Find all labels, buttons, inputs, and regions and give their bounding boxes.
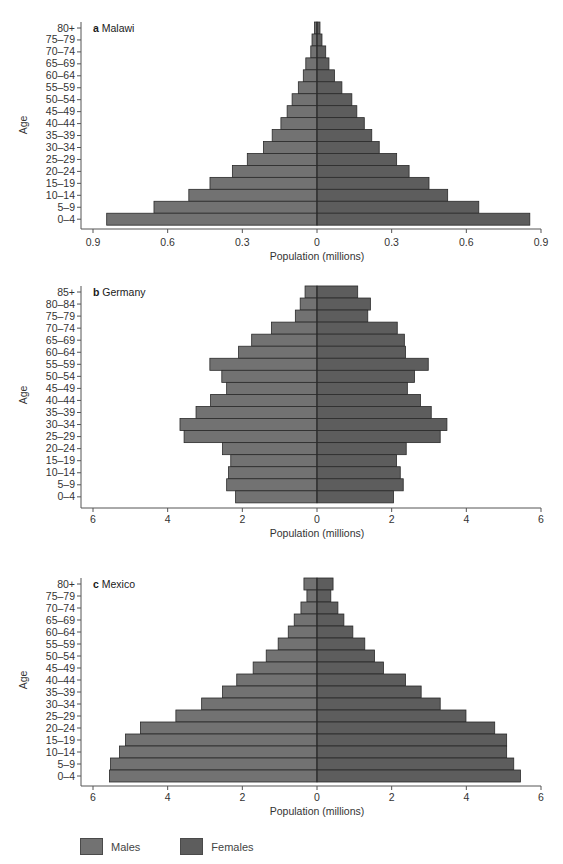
bar-male (263, 142, 317, 154)
bar-female (317, 153, 397, 165)
bar-male (311, 46, 317, 58)
x-tick-label: 6 (90, 513, 96, 525)
bar-male (154, 201, 317, 213)
bar-female (317, 734, 507, 746)
x-axis-title: Population (millions) (270, 527, 365, 539)
bar-female (317, 346, 405, 358)
x-tick-label: 0.9 (534, 236, 549, 248)
bar-female (317, 431, 440, 443)
age-tick-label: 65–69 (46, 614, 75, 626)
age-tick-label: 70–74 (46, 45, 75, 57)
bar-female (317, 382, 407, 394)
bar-female (317, 106, 357, 118)
bar-female (317, 189, 448, 201)
bar-male (231, 455, 317, 467)
bar-female (317, 578, 333, 590)
bar-female (317, 758, 514, 770)
x-axis-title: Population (millions) (270, 805, 365, 817)
bar-male (227, 382, 317, 394)
y-axis-title: Age (17, 116, 29, 135)
males-swatch (80, 838, 103, 855)
x-axis-title: Population (millions) (270, 250, 365, 262)
age-tick-label: 80+ (57, 22, 75, 34)
pyramid-panel-malawi: 80+75–7970–7465–6960–6455–5950–5445–4940… (17, 22, 548, 263)
legend-label-females: Females (211, 841, 253, 853)
bar-male (223, 686, 317, 698)
x-tick-label: 2 (389, 513, 395, 525)
bar-female (317, 358, 428, 370)
bar-male (210, 358, 317, 370)
bar-female (317, 370, 414, 382)
age-tick-label: 5–9 (57, 478, 75, 490)
age-tick-label: 50–54 (46, 650, 75, 662)
age-tick-label: 25–29 (46, 430, 75, 442)
age-tick-label: 60–64 (46, 346, 75, 358)
x-tick-label: 4 (463, 513, 469, 525)
bar-male (107, 213, 317, 225)
age-tick-label: 10–14 (46, 746, 75, 758)
bar-female (317, 70, 334, 82)
x-tick-label: 0 (314, 236, 320, 248)
bar-female (317, 419, 447, 431)
bar-female (317, 334, 404, 346)
panel-title: b Germany (93, 286, 146, 298)
y-axis-title: Age (17, 386, 29, 405)
age-tick-label: 20–24 (46, 442, 75, 454)
bar-female (317, 34, 322, 46)
bar-female (317, 394, 420, 406)
age-tick-label: 15–19 (46, 454, 75, 466)
bar-female (317, 22, 320, 34)
bar-male (176, 710, 317, 722)
age-tick-label: 35–39 (46, 129, 75, 141)
age-tick-label: 30–34 (46, 698, 75, 710)
bar-female (317, 686, 421, 698)
age-tick-label: 70–74 (46, 322, 75, 334)
y-axis-title: Age (17, 671, 29, 690)
bar-male (281, 118, 317, 130)
bar-male (202, 698, 317, 710)
females-swatch (180, 838, 203, 855)
bar-female (317, 710, 466, 722)
panel-title: a Malawi (93, 22, 134, 34)
age-tick-label: 70–74 (46, 602, 75, 614)
age-tick-label: 50–54 (46, 93, 75, 105)
x-tick-label: 4 (165, 791, 171, 803)
bar-male (301, 602, 317, 614)
bar-female (317, 58, 329, 70)
bar-male (271, 322, 317, 334)
age-tick-label: 75–79 (46, 590, 75, 602)
bar-female (317, 322, 397, 334)
bar-male (272, 130, 317, 142)
bar-male (236, 491, 317, 503)
age-tick-label: 35–39 (46, 686, 75, 698)
bar-male (239, 346, 317, 358)
x-tick-label: 6 (538, 513, 544, 525)
age-tick-label: 40–44 (46, 674, 75, 686)
bar-female (317, 674, 405, 686)
bar-male (295, 310, 317, 322)
age-tick-label: 80–84 (46, 298, 75, 310)
bar-male (303, 70, 317, 82)
x-tick-label: 0 (314, 513, 320, 525)
x-tick-label: 6 (538, 791, 544, 803)
population-pyramids-figure: 80+75–7970–7465–6960–6455–5950–5445–4940… (0, 0, 563, 864)
age-tick-label: 65–69 (46, 57, 75, 69)
bar-female (317, 491, 394, 503)
bar-male (222, 370, 317, 382)
age-tick-label: 75–79 (46, 310, 75, 322)
bar-male (312, 34, 317, 46)
legend-item-females: Females (180, 838, 253, 855)
bar-male (306, 58, 317, 70)
age-tick-label: 0–4 (57, 770, 75, 782)
bar-female (317, 94, 352, 106)
age-tick-label: 40–44 (46, 394, 75, 406)
age-tick-label: 45–49 (46, 105, 75, 117)
x-tick-label: 4 (463, 791, 469, 803)
bar-female (317, 626, 353, 638)
bar-female (317, 698, 440, 710)
bar-male (237, 674, 317, 686)
age-tick-label: 35–39 (46, 406, 75, 418)
bar-male (292, 94, 317, 106)
pyramid-panel-mexico: 80+75–7970–7465–6960–6455–5950–5445–4940… (17, 578, 544, 818)
age-tick-label: 85+ (57, 286, 75, 298)
